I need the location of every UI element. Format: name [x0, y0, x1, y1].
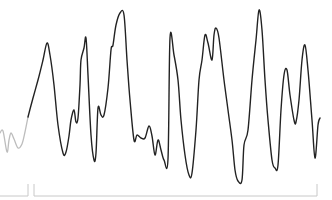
gray-waveform-line: [0, 117, 28, 152]
segment-bracket-right: [34, 184, 317, 196]
segment-brackets: [0, 184, 317, 196]
waveform-figure: [0, 0, 332, 200]
waveform-plot: [0, 0, 332, 200]
segment-bracket-left: [0, 184, 28, 196]
black-waveform-line: [28, 10, 320, 184]
